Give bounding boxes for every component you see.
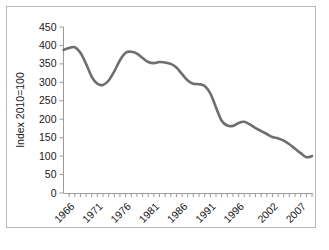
x-tick-label: 1981 (136, 200, 161, 225)
line-chart: 050100150200250300350400450 196619711976… (0, 0, 329, 250)
y-axis-title: Index 2010=100 (14, 72, 26, 148)
x-axis-tick-labels: 196619711976198119861991199620022007 (52, 200, 309, 225)
y-tick-label: 50 (45, 168, 57, 180)
x-tick-label: 1971 (80, 200, 105, 225)
y-tick-label: 400 (39, 39, 57, 51)
y-axis-tick-labels: 050100150200250300350400450 (39, 21, 57, 199)
x-tick-label: 2002 (255, 200, 280, 225)
y-tick-label: 450 (39, 21, 57, 33)
y-tick-label: 350 (39, 57, 57, 69)
x-tick-label: 2007 (283, 200, 308, 225)
y-tick-label: 200 (39, 113, 57, 125)
x-tick-label: 1991 (193, 200, 218, 225)
y-tick-label: 0 (51, 187, 57, 199)
y-tick-label: 150 (39, 131, 57, 143)
y-tick-label: 100 (39, 150, 57, 162)
data-series-line (64, 47, 313, 157)
x-tick-label: 1966 (52, 200, 77, 225)
y-tick-label: 300 (39, 76, 57, 88)
y-axis-tick-marks (60, 27, 64, 193)
y-tick-label: 250 (39, 94, 57, 106)
x-tick-label: 1986 (165, 200, 190, 225)
x-tick-label: 1996 (221, 200, 246, 225)
x-tick-label: 1976 (108, 200, 133, 225)
